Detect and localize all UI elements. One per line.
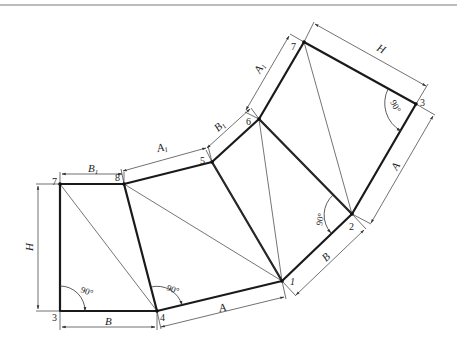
dim-label-B1-left: B1: [88, 162, 98, 176]
dim-label-A-bottom: A: [217, 301, 228, 315]
dim-label-B1-right: B1: [211, 118, 228, 135]
dim-label-B-bottom: B: [105, 315, 112, 327]
point-label-5: 5: [200, 155, 205, 166]
dim-label-H-top: H: [374, 41, 389, 56]
point-label-3-left: 3: [52, 312, 57, 323]
vertex-dots: [58, 40, 418, 313]
dim-label-B-right: B: [319, 250, 332, 263]
outline: [60, 42, 416, 311]
dim-label-H-left: H: [23, 242, 35, 252]
point-label-8: 8: [115, 172, 120, 183]
angle-label-2: 90°: [314, 212, 326, 227]
point-label-4: 4: [160, 312, 165, 323]
point-label-3-top: 3: [420, 97, 425, 108]
point-label-1: 1: [290, 276, 295, 287]
angle-label-3-top: 90°: [388, 98, 403, 114]
angle-label-4: 90°: [165, 282, 181, 296]
dim-label-A-right: A: [388, 160, 402, 173]
point-labels: 3 4 7 8 5 6 7 3 2 1: [52, 41, 425, 323]
point-label-7-top: 7: [291, 41, 296, 52]
point-label-2: 2: [349, 221, 354, 232]
angle-arcs: [60, 89, 401, 311]
angle-label-3-left: 90°: [79, 284, 95, 298]
dim-label-A1-mid: A1: [155, 140, 169, 156]
point-label-6: 6: [246, 116, 251, 127]
dim-label-A1-top: A1: [251, 60, 269, 77]
duct-development-diagram: 3 4 7 8 5 6 7 3 2 1 B1 A1 B1 A1 H A B A …: [0, 0, 457, 353]
point-label-7-left: 7: [52, 176, 57, 187]
triangulation-lines: [60, 42, 352, 311]
